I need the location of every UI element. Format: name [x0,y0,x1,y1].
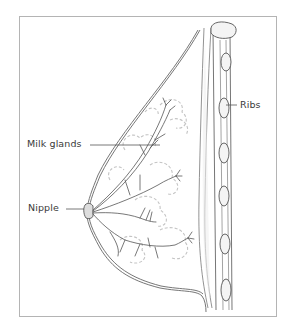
rib [221,279,231,301]
rib [221,53,231,71]
chest-wall [199,28,212,308]
rib [219,186,229,206]
nipple-shape [84,203,93,218]
milk-glands-label: Milk glands [27,138,82,149]
breast-anatomy-illustration [0,0,292,335]
milk-ducts [93,98,194,258]
nipple-label: Nipple [28,202,59,213]
rib-column [213,30,232,310]
ribs-label: Ribs [240,99,261,110]
rib [219,143,229,163]
breast-outline [87,30,206,312]
rib [219,98,229,118]
rib-top [211,22,236,38]
leader-lines [66,105,237,209]
rib [220,234,230,254]
